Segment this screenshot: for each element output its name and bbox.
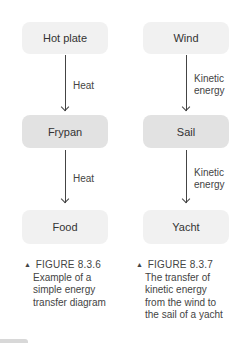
node-label: Hot plate	[43, 32, 87, 44]
triangle-up-icon: ▲	[24, 261, 31, 268]
node-food: Food	[22, 210, 108, 244]
figure-caption-8-3-6: ▲ FIGURE 8.3.6 Example of a simple energ…	[24, 259, 129, 309]
figure-caption-8-3-7: ▲ FIGURE 8.3.7 The transfer of kinetic e…	[136, 259, 241, 322]
edge-label-kinetic-energy-2: Kinetic energy	[194, 167, 225, 191]
node-wind: Wind	[143, 22, 229, 54]
arrow-down-icon	[186, 55, 187, 111]
caption-body: The transfer of kinetic energy from the …	[136, 272, 241, 322]
node-hot-plate: Hot plate	[22, 22, 108, 54]
edge-label-heat-2: Heat	[73, 173, 94, 185]
caption-line: from the wind to	[145, 297, 241, 310]
node-label: Frypan	[48, 126, 82, 138]
edge-label-line: Kinetic	[194, 167, 225, 179]
node-frypan: Frypan	[22, 115, 108, 148]
arrow-down-icon	[186, 150, 187, 203]
node-label: Wind	[173, 32, 198, 44]
node-yacht: Yacht	[143, 210, 229, 244]
figure-number: FIGURE 8.3.7	[148, 259, 213, 270]
arrow-down-icon	[65, 55, 66, 111]
edge-label-line: energy	[194, 179, 225, 191]
caption-line: The transfer of	[145, 272, 241, 285]
triangle-up-icon: ▲	[136, 261, 143, 268]
edge-label-line: Kinetic	[194, 73, 225, 85]
caption-line: the sail of a yacht	[145, 309, 241, 322]
caption-line: Example of a	[33, 272, 129, 285]
edge-label-kinetic-energy-1: Kinetic energy	[194, 73, 225, 97]
node-label: Sail	[177, 126, 195, 138]
arrow-down-icon	[65, 150, 66, 203]
edge-label-heat-1: Heat	[73, 80, 94, 92]
page-edge-tab	[0, 339, 28, 343]
node-sail: Sail	[143, 115, 229, 148]
figure-number: FIGURE 8.3.6	[36, 259, 101, 270]
caption-line: transfer diagram	[33, 297, 129, 310]
caption-body: Example of a simple energy transfer diag…	[24, 272, 129, 310]
edge-label-line: energy	[194, 85, 225, 97]
caption-line: kinetic energy	[145, 284, 241, 297]
node-label: Food	[52, 221, 77, 233]
caption-line: simple energy	[33, 284, 129, 297]
node-label: Yacht	[172, 221, 199, 233]
